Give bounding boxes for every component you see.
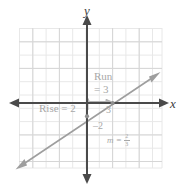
graph-canvas [0, 0, 189, 191]
axes [14, 20, 164, 178]
coordinate-plane-figure: Run = 3 Rise = 2 3 –2 y x m = 2 3 [0, 0, 189, 191]
y-axis-arrow-down [83, 174, 92, 184]
y-axis-label: y [84, 4, 90, 17]
point-x-intercept [111, 101, 115, 105]
x-intercept-tick-label: 3 [106, 105, 111, 115]
rise-label: Rise = 2 [39, 103, 76, 114]
x-axis-arrow-right [159, 99, 169, 108]
run-value-label: = 3 [94, 84, 108, 95]
run-label: Run [94, 71, 112, 82]
slope-formula-label: m = 2 3 [107, 133, 130, 148]
slope-denominator: 3 [125, 141, 128, 147]
x-axis-label: x [170, 97, 176, 110]
point-y-intercept [85, 114, 89, 118]
slope-fraction: 2 3 [124, 133, 130, 148]
slope-numerator: 2 [125, 133, 128, 139]
slope-prefix: m = [107, 135, 122, 145]
grid-major-lines [19, 28, 162, 168]
x-axis-arrow-left [9, 99, 19, 108]
y-intercept-tick-label: –2 [93, 121, 103, 131]
grid-lines [19, 28, 162, 168]
line-arrow-upper-right [149, 72, 161, 83]
plotted-line [22, 76, 155, 165]
